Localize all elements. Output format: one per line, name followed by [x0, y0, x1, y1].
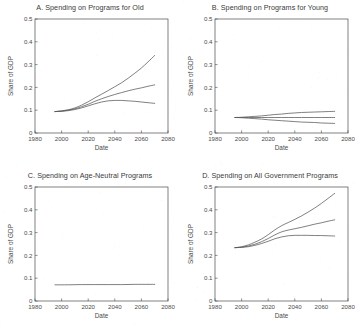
y-tick-label: 0.3	[204, 61, 213, 68]
x-tick-label: 2060	[315, 135, 329, 142]
x-tick-label: 2080	[161, 303, 175, 310]
x-tick-label: 2000	[235, 135, 249, 142]
x-tick-label: 1980	[208, 303, 222, 310]
series-line-high	[235, 193, 335, 247]
y-tick-label: 0.2	[204, 252, 213, 259]
panel-c-plot: 00.10.20.30.40.5198020002020204020602080…	[0, 168, 180, 336]
x-tick-label: 2080	[161, 135, 175, 142]
x-axis-label: Date	[275, 144, 289, 151]
plot-frame	[215, 19, 348, 133]
y-tick-label: 0.5	[204, 183, 213, 190]
x-tick-label: 2020	[261, 135, 275, 142]
y-tick-label: 0.5	[24, 183, 33, 190]
y-tick-label: 0.4	[24, 38, 33, 45]
plot-frame	[215, 187, 348, 301]
y-tick-label: 0.3	[24, 61, 33, 68]
panel-a-plot: 00.10.20.30.40.5198020002020204020602080…	[0, 0, 180, 168]
plot-frame	[35, 187, 168, 301]
y-tick-label: 0.2	[24, 252, 33, 259]
y-tick-label: 0.4	[204, 38, 213, 45]
series-line-middle	[55, 85, 155, 112]
x-tick-label: 2060	[315, 303, 329, 310]
plot-frame	[35, 19, 168, 133]
y-tick-label: 0.1	[24, 274, 33, 281]
series-line-high	[55, 55, 155, 111]
panel-b-plot: 00.10.20.30.40.5198020002020204020602080…	[180, 0, 360, 168]
x-tick-label: 2040	[288, 135, 302, 142]
x-tick-label: 2080	[341, 135, 355, 142]
x-axis-label: Date	[95, 312, 109, 319]
y-axis-label: Share of GDP	[7, 56, 14, 96]
y-tick-label: 0.1	[204, 274, 213, 281]
x-tick-label: 2000	[55, 303, 69, 310]
y-tick-label: 0.4	[204, 206, 213, 213]
x-tick-label: 2000	[55, 135, 69, 142]
x-tick-label: 2020	[81, 303, 95, 310]
x-tick-label: 2020	[81, 135, 95, 142]
chart-panel-d: D. Spending on All Government Programs 0…	[180, 168, 360, 336]
chart-panel-b: B. Spending on Programs for Young 00.10.…	[180, 0, 360, 168]
x-tick-label: 2000	[235, 303, 249, 310]
figure-panel-grid: A. Spending on Programs for Old 00.10.20…	[0, 0, 360, 336]
y-tick-label: 0.5	[204, 15, 213, 22]
y-axis-label: Share of GDP	[187, 224, 194, 264]
x-tick-label: 1980	[208, 135, 222, 142]
x-tick-label: 2040	[108, 135, 122, 142]
series-line-high	[235, 111, 335, 117]
chart-panel-a: A. Spending on Programs for Old 00.10.20…	[0, 0, 180, 168]
y-axis-label: Share of GDP	[187, 56, 194, 96]
y-axis-label: Share of GDP	[7, 224, 14, 264]
y-tick-label: 0.1	[204, 106, 213, 113]
y-tick-label: 0.1	[24, 106, 33, 113]
x-tick-label: 1980	[28, 303, 42, 310]
y-tick-label: 0.2	[204, 84, 213, 91]
x-tick-label: 1980	[28, 135, 42, 142]
y-tick-label: 0.3	[204, 229, 213, 236]
panel-d-plot: 00.10.20.30.40.5198020002020204020602080…	[180, 168, 360, 336]
chart-panel-c: C. Spending on Age-Neutral Programs 00.1…	[0, 168, 180, 336]
x-axis-label: Date	[95, 144, 109, 151]
x-tick-label: 2020	[261, 303, 275, 310]
x-tick-label: 2060	[135, 135, 149, 142]
x-tick-label: 2060	[135, 303, 149, 310]
y-tick-label: 0.5	[24, 15, 33, 22]
series-line-low	[235, 118, 335, 124]
x-tick-label: 2080	[341, 303, 355, 310]
y-tick-label: 0.2	[24, 84, 33, 91]
y-tick-label: 0.3	[24, 229, 33, 236]
y-tick-label: 0.4	[24, 206, 33, 213]
x-axis-label: Date	[275, 312, 289, 319]
x-tick-label: 2040	[108, 303, 122, 310]
x-tick-label: 2040	[288, 303, 302, 310]
